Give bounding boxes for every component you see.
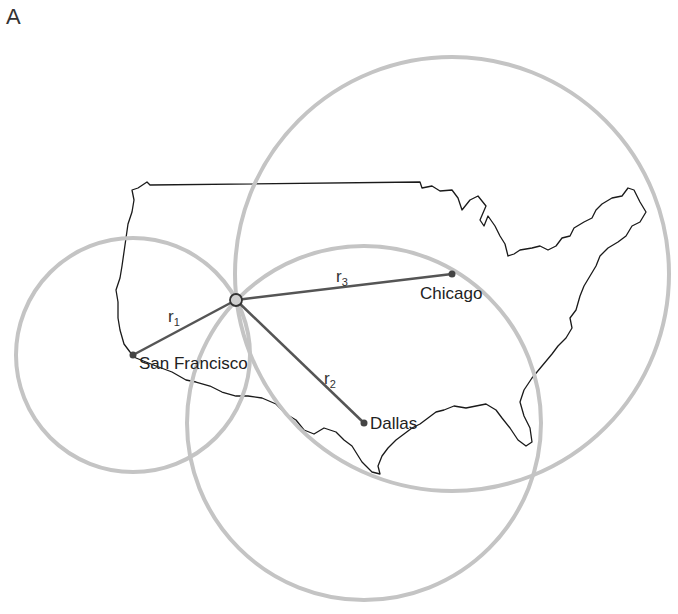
range-label-r1: r1: [168, 307, 180, 328]
receiver-point: [230, 294, 242, 306]
city-point-dallas: [361, 420, 368, 427]
city-point-chicago: [449, 271, 456, 278]
city-label-dallas: Dallas: [370, 414, 417, 433]
range-line-r1: [133, 300, 236, 355]
city-point-san-francisco: [130, 352, 137, 359]
city-label-san-francisco: San Francisco: [139, 354, 248, 373]
range-label-r3: r3: [336, 267, 348, 288]
city-label-chicago: Chicago: [420, 284, 482, 303]
range-label-r2: r2: [324, 369, 336, 390]
trilateration-diagram: r1 r2 r3 San Francisco Dallas Chicago: [0, 0, 678, 614]
